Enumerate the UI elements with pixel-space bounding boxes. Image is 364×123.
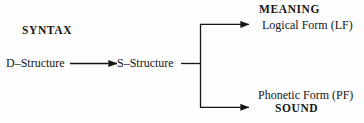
d-structure-label: D–Structure [6, 57, 65, 69]
logical-form-label: Logical Form (LF) [262, 19, 353, 31]
sound-label: SOUND [275, 103, 318, 115]
meaning-label: MEANING [259, 4, 320, 16]
phonetic-form-label: Phonetic Form (PF) [258, 89, 353, 101]
syntax-label: SYNTAX [22, 25, 72, 37]
grammar-y-model-diagram: SYNTAX D–Structure S–Structure MEANING L… [0, 0, 364, 123]
s-structure-label: S–Structure [117, 57, 174, 69]
